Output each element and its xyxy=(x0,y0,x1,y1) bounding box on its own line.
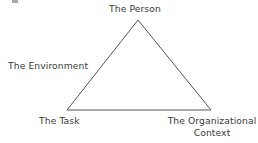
org-context-line-2: Context xyxy=(194,127,231,138)
vertex-label-organizational-context: The Organizational Context xyxy=(167,115,257,138)
org-context-line-1: The Organizational xyxy=(168,115,257,126)
vertex-label-person: The Person xyxy=(109,3,161,15)
triangle-diagram-figure: The Person The Environment The Task The … xyxy=(0,0,258,143)
scan-artifact-smudge xyxy=(12,0,18,3)
vertex-label-task: The Task xyxy=(39,115,80,127)
vertex-label-environment: The Environment xyxy=(8,60,88,72)
triangle-outline xyxy=(67,20,211,110)
